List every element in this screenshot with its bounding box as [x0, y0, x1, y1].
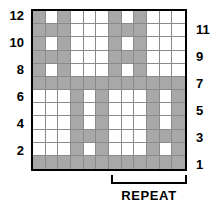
chart-cell — [33, 51, 46, 64]
chart-cell — [122, 51, 135, 64]
chart-cell — [147, 37, 160, 50]
chart-cell — [172, 11, 185, 24]
row-labels-right: 11 9 7 5 3 1 — [190, 9, 220, 171]
chart-cell — [147, 64, 160, 77]
chart-cell — [96, 77, 109, 90]
chart-cell — [71, 103, 84, 116]
chart-cell — [122, 116, 135, 129]
chart-cell — [109, 77, 122, 90]
chart-cell — [122, 77, 135, 90]
chart-cell — [58, 77, 71, 90]
chart-cell — [160, 130, 173, 143]
chart-cell — [160, 90, 173, 103]
chart-cell — [58, 64, 71, 77]
chart-cell — [134, 143, 147, 156]
chart-cell — [147, 11, 160, 24]
chart-cell — [84, 90, 97, 103]
chart-cell — [134, 77, 147, 90]
chart-cell — [46, 103, 59, 116]
chart-cell — [172, 156, 185, 169]
row-label-right-1: 1 — [190, 158, 203, 172]
chart-cell — [122, 143, 135, 156]
chart-cell — [172, 37, 185, 50]
chart-cell — [147, 103, 160, 116]
chart-cell — [172, 90, 185, 103]
chart-cell — [84, 64, 97, 77]
repeat-label: REPEAT — [111, 188, 187, 203]
chart-cell — [46, 116, 59, 129]
chart-cell — [46, 11, 59, 24]
chart-cell — [58, 37, 71, 50]
chart-cell — [172, 116, 185, 129]
row-label-right-9: 9 — [190, 50, 203, 64]
chart-cell — [84, 77, 97, 90]
chart-cell — [96, 37, 109, 50]
chart-cell — [71, 37, 84, 50]
row-label-left-2: 2 — [17, 144, 30, 158]
chart-cell — [71, 156, 84, 169]
chart-cell — [109, 51, 122, 64]
chart-cell — [134, 156, 147, 169]
chart-cell — [134, 64, 147, 77]
chart-cell — [46, 130, 59, 143]
chart-cell — [33, 156, 46, 169]
chart-cell — [147, 143, 160, 156]
chart-cell — [147, 77, 160, 90]
chart-cell — [109, 130, 122, 143]
chart-cell — [172, 77, 185, 90]
chart-cell — [84, 11, 97, 24]
chart-cell — [122, 64, 135, 77]
chart-cell — [134, 24, 147, 37]
chart-cell — [84, 51, 97, 64]
chart-cell — [96, 51, 109, 64]
chart-cell — [122, 90, 135, 103]
chart-grid — [33, 11, 185, 169]
row-label-left-8: 8 — [17, 63, 30, 77]
chart-cell — [58, 103, 71, 116]
chart-cell — [147, 51, 160, 64]
chart-cell — [172, 51, 185, 64]
chart-cell — [172, 103, 185, 116]
chart-cell — [109, 156, 122, 169]
chart-cell — [122, 103, 135, 116]
chart-cell — [109, 64, 122, 77]
chart-cell — [160, 24, 173, 37]
chart-cell — [122, 11, 135, 24]
chart-cell — [84, 143, 97, 156]
chart-cell — [46, 51, 59, 64]
row-label-left-6: 6 — [17, 90, 30, 104]
chart-cell — [46, 156, 59, 169]
chart-cell — [33, 130, 46, 143]
chart-cell — [84, 116, 97, 129]
chart-cell — [46, 24, 59, 37]
chart-cell — [96, 24, 109, 37]
chart-cell — [58, 11, 71, 24]
chart-cell — [71, 130, 84, 143]
chart-cell — [134, 103, 147, 116]
chart-cell — [96, 116, 109, 129]
chart-cell — [33, 143, 46, 156]
chart-cell — [58, 156, 71, 169]
chart-cell — [96, 64, 109, 77]
chart-cell — [71, 51, 84, 64]
chart-cell — [147, 90, 160, 103]
chart-cell — [109, 116, 122, 129]
chart-cell — [71, 24, 84, 37]
chart-cell — [147, 130, 160, 143]
chart-cell — [58, 51, 71, 64]
chart-cell — [96, 156, 109, 169]
chart-cell — [160, 64, 173, 77]
chart-cell — [58, 90, 71, 103]
chart-cell — [160, 11, 173, 24]
chart-cell — [172, 130, 185, 143]
chart-cell — [84, 130, 97, 143]
chart-cell — [96, 143, 109, 156]
chart-cell — [122, 156, 135, 169]
chart-cell — [84, 103, 97, 116]
chart-cell — [134, 11, 147, 24]
chart-cell — [172, 143, 185, 156]
chart-cell — [172, 24, 185, 37]
chart-cell — [172, 64, 185, 77]
row-label-right-11: 11 — [190, 23, 210, 37]
chart-cell — [71, 143, 84, 156]
